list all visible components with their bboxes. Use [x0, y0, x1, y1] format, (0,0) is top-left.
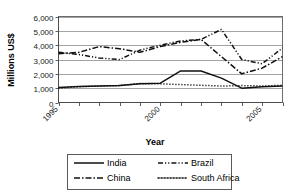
line-chart-figure: 01,0002,0003,0004,0005,0006,000 19952000… — [0, 0, 299, 195]
chart-canvas: 01,0002,0003,0004,0005,0006,000 19952000… — [0, 0, 299, 195]
x-tick-label: 2000 — [143, 104, 162, 123]
y-axis: 01,0002,0003,0004,0005,0006,000 — [33, 14, 58, 109]
chart-legend: IndiaBrazilChinaSouth Africa — [68, 155, 240, 190]
x-tick-label: 2005 — [245, 104, 264, 123]
y-tick-label: 1,000 — [33, 85, 54, 94]
legend-label-south-africa[interactable]: South Africa — [191, 173, 240, 183]
y-tick-label: 6,000 — [33, 14, 54, 23]
legend-label-china[interactable]: China — [107, 173, 131, 183]
legend-label-india[interactable]: India — [107, 158, 127, 168]
y-tick-label: 4,000 — [33, 42, 54, 51]
series-line-brazil — [59, 29, 283, 63]
x-axis: 199520002005 — [41, 103, 284, 124]
legend-label-brazil[interactable]: Brazil — [191, 158, 214, 168]
y-tick-label: 2,000 — [33, 71, 54, 80]
x-axis-title: Year — [145, 137, 165, 147]
data-series-group — [59, 29, 283, 88]
y-tick-label: 5,000 — [33, 28, 54, 37]
x-tick-label: 1995 — [41, 104, 60, 123]
plot-frame — [59, 17, 283, 103]
y-axis-title: Millions US$ — [6, 33, 16, 87]
y-tick-label: 3,000 — [33, 57, 54, 66]
